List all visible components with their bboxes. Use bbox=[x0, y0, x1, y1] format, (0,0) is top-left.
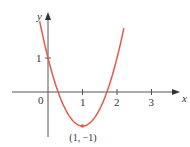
y-axis-arrow-icon bbox=[45, 12, 51, 20]
vertex-label: (1, −1) bbox=[69, 132, 96, 144]
vertex-point bbox=[81, 124, 85, 128]
x-tick-label-3: 3 bbox=[149, 96, 155, 108]
y-axis-label: y bbox=[36, 10, 42, 22]
x-axis-label: x bbox=[181, 92, 187, 104]
parabola-curve bbox=[40, 21, 124, 126]
x-tick-label-1: 1 bbox=[80, 96, 86, 108]
origin-label: 0 bbox=[38, 94, 44, 106]
x-axis-arrow-icon bbox=[172, 89, 180, 95]
x-tick-label-2: 2 bbox=[114, 96, 120, 108]
y-tick-label-1: 1 bbox=[36, 52, 42, 64]
parabola-graph: y x 0 1 2 3 1 (1, −1) bbox=[0, 0, 190, 147]
